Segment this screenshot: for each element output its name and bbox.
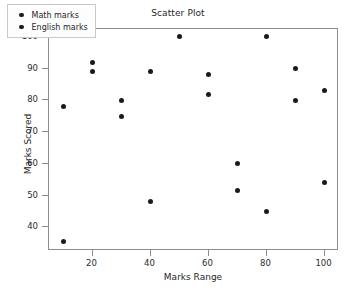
data-point [119, 114, 124, 119]
data-point [148, 69, 153, 74]
data-point [148, 199, 153, 204]
x-axis-label: Marks Range [48, 272, 338, 282]
data-point [61, 104, 66, 109]
x-tick-label: 40 [130, 258, 170, 268]
chart-legend: Math marksEnglish marks [7, 4, 96, 38]
y-tick-label: 50 [0, 190, 38, 200]
data-point [264, 209, 269, 214]
legend-marker-icon [19, 13, 24, 18]
data-point [206, 72, 211, 77]
x-tick-mark [150, 250, 151, 256]
x-tick-label: 20 [72, 258, 112, 268]
y-tick-label: 70 [0, 126, 38, 136]
plot-area [48, 28, 338, 250]
data-point [235, 161, 240, 166]
y-axis-label: Marks Scored [23, 64, 33, 224]
data-point [90, 69, 95, 74]
legend-item-label: Math marks [32, 11, 79, 20]
data-point [206, 92, 211, 97]
x-tick-label: 100 [304, 258, 344, 268]
data-point [90, 60, 95, 65]
x-tick-mark [266, 250, 267, 256]
x-tick-label: 60 [188, 258, 228, 268]
x-tick-mark [208, 250, 209, 256]
data-point [264, 34, 269, 39]
data-point [235, 188, 240, 193]
data-point [293, 66, 298, 71]
y-tick-label: 40 [0, 221, 38, 231]
data-point [293, 98, 298, 103]
legend-item-label: English marks [32, 23, 88, 32]
x-tick-label: 80 [246, 258, 286, 268]
legend-marker-icon [19, 25, 24, 30]
y-tick-label: 90 [0, 63, 38, 73]
y-tick-label: 80 [0, 94, 38, 104]
data-point [119, 98, 124, 103]
scatter-plot-figure: Scatter Plot Marks Scored Marks Range 40… [0, 0, 356, 299]
y-tick-label: 60 [0, 158, 38, 168]
data-point [177, 34, 182, 39]
data-point [322, 88, 327, 93]
legend-item: English marks [13, 21, 88, 33]
x-tick-mark [324, 250, 325, 256]
x-tick-mark [92, 250, 93, 256]
data-point [322, 180, 327, 185]
legend-item: Math marks [13, 9, 88, 21]
data-point [61, 239, 66, 244]
